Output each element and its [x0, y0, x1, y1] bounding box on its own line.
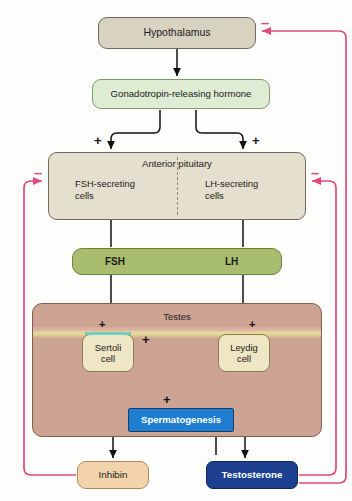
- anterior-pituitary-divider: [177, 157, 178, 215]
- node-leydig-cell[interactable]: Leydig cell: [218, 334, 270, 372]
- node-hypothalamus[interactable]: Hypothalamus: [98, 17, 256, 49]
- node-gonadotropin-bar[interactable]: FSH LH: [72, 248, 282, 275]
- plus-to-spermatogenesis-icon: +: [163, 392, 171, 407]
- minus-testosterone-to-hypothalamus-icon: –: [261, 14, 269, 31]
- lh-label: LH: [225, 256, 238, 267]
- node-inhibin[interactable]: Inhibin: [77, 461, 149, 489]
- lh-cells-line1: LH-secreting: [205, 178, 258, 190]
- testosterone-label: Testosterone: [222, 470, 283, 481]
- inhibin-label: Inhibin: [99, 470, 128, 481]
- gnrh-label: Gonadotropin-releasing hormone: [111, 89, 252, 100]
- sertoli-line2: cell: [95, 353, 122, 364]
- edge-gnrh-to-lh-cells: [196, 110, 243, 149]
- node-anterior-pituitary[interactable]: Anterior pituitary FSH-secreting cells L…: [48, 152, 306, 220]
- anterior-pituitary-lh-cells: LH-secreting cells: [205, 178, 258, 202]
- plus-gnrh-to-fsh-cells-icon: +: [94, 133, 102, 148]
- leydig-line1: Leydig: [230, 342, 258, 353]
- hpg-axis-diagram: Hypothalamus Gonadotropin-releasing horm…: [0, 0, 352, 501]
- hypothalamus-label: Hypothalamus: [143, 27, 210, 39]
- sertoli-line1: Sertoli: [95, 342, 122, 353]
- plus-gnrh-to-lh-cells-icon: +: [252, 133, 260, 148]
- fsh-cells-line2: cells: [75, 190, 135, 202]
- plus-fsh-to-sertoli-icon: +: [99, 318, 105, 330]
- edge-gnrh-to-fsh-cells: [111, 110, 160, 149]
- fsh-label: FSH: [105, 256, 125, 267]
- fsh-cells-line1: FSH-secreting: [75, 178, 135, 190]
- node-testosterone[interactable]: Testosterone: [206, 461, 298, 489]
- anterior-pituitary-fsh-cells: FSH-secreting cells: [75, 178, 135, 202]
- minus-testosterone-to-pituitary-icon: –: [311, 164, 319, 181]
- node-gonadotropin-releasing-hormone[interactable]: Gonadotropin-releasing hormone: [92, 79, 270, 109]
- plus-lh-to-leydig-icon: +: [249, 318, 255, 330]
- leydig-line2: cell: [230, 353, 258, 364]
- node-sertoli-cell[interactable]: Sertoli cell: [82, 334, 134, 372]
- minus-inhibin-to-pituitary-icon: –: [34, 164, 42, 181]
- lh-cells-line2: cells: [205, 190, 258, 202]
- spermatogenesis-label: Spermatogenesis: [141, 415, 221, 426]
- seminiferous-membrane-stripe: [33, 327, 321, 338]
- node-spermatogenesis[interactable]: Spermatogenesis: [128, 408, 234, 432]
- plus-testosterone-to-sertoli-icon: +: [142, 332, 150, 347]
- testes-title: Testes: [33, 312, 321, 323]
